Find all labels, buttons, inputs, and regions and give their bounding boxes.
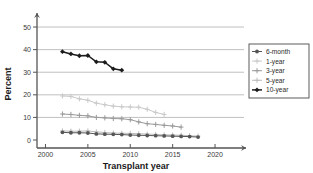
data-point-marker (128, 104, 133, 109)
series-layer (60, 49, 200, 139)
data-point-marker (162, 134, 166, 138)
data-point-marker (94, 101, 99, 106)
y-axis-title: Percent (3, 67, 13, 100)
data-point-marker (77, 131, 81, 135)
legend-label: 10-year (266, 86, 289, 94)
data-point-marker (94, 115, 99, 120)
y-tick-label: 10 (23, 114, 31, 121)
data-point-marker (136, 119, 141, 124)
data-point-marker (119, 116, 124, 121)
data-point-marker (94, 132, 98, 136)
data-point-marker (153, 110, 158, 115)
data-point-marker (162, 123, 167, 128)
data-point-marker (77, 96, 82, 101)
data-point-marker (179, 125, 184, 130)
y-tick-label: 20 (23, 91, 31, 98)
data-point-marker (69, 112, 74, 117)
y-tick-label: 40 (23, 46, 31, 53)
legend-label: 6-month (266, 48, 291, 55)
gridlines (37, 27, 244, 117)
data-point-marker (171, 134, 175, 138)
y-tick-label: 0 (27, 137, 31, 144)
series-10-year (60, 49, 124, 72)
x-tick-label: 2010 (122, 151, 138, 158)
x-tick-label: 2020 (207, 151, 223, 158)
data-point-marker (77, 53, 82, 58)
data-point-marker (120, 133, 124, 137)
x-tick-label: 2000 (38, 151, 54, 158)
x-tick-label: 2005 (80, 151, 96, 158)
data-point-marker (128, 133, 132, 137)
data-point-marker (154, 134, 158, 138)
legend-label: 5-year (266, 77, 285, 85)
data-point-marker (153, 122, 158, 127)
data-point-marker (69, 131, 73, 135)
legend-label: 3-year (266, 67, 285, 75)
y-axis-ticks: 01020304050 (23, 24, 37, 144)
data-point-marker (170, 123, 175, 128)
data-point-marker (103, 102, 108, 107)
data-point-marker (86, 98, 91, 103)
data-point-marker (196, 135, 200, 139)
data-point-marker (136, 105, 141, 110)
data-point-marker (145, 134, 149, 138)
data-point-marker (188, 135, 192, 139)
data-point-marker (103, 115, 108, 120)
data-point-marker (111, 132, 115, 136)
data-point-marker (111, 116, 116, 121)
x-axis-title: Transplant year (103, 161, 170, 171)
data-point-marker (61, 130, 65, 134)
line-chart: 01020304050 20002005201020152020 Percent… (0, 0, 313, 173)
series-1-year (60, 93, 166, 117)
x-axis-ticks: 20002005201020152020 (38, 144, 223, 158)
legend-label: 1-year (266, 58, 285, 66)
data-point-marker (137, 133, 141, 137)
data-point-marker (111, 104, 116, 109)
data-point-marker (69, 52, 74, 57)
data-point-marker (119, 104, 124, 109)
data-point-marker (179, 134, 183, 138)
legend: 6-month1-year3-year5-year10-year (249, 44, 309, 98)
y-tick-label: 50 (23, 24, 31, 31)
data-point-marker (86, 131, 90, 135)
data-point-marker (60, 93, 65, 98)
data-point-marker (162, 112, 167, 117)
chart-figure: 01020304050 20002005201020152020 Percent… (0, 0, 313, 173)
axes-layer (34, 13, 246, 151)
x-tick-label: 2015 (165, 151, 181, 158)
data-point-marker (60, 111, 65, 116)
data-point-marker (103, 132, 107, 136)
data-point-marker (145, 107, 150, 112)
data-point-marker (255, 50, 259, 54)
data-point-marker (145, 121, 150, 126)
y-tick-label: 30 (23, 69, 31, 76)
